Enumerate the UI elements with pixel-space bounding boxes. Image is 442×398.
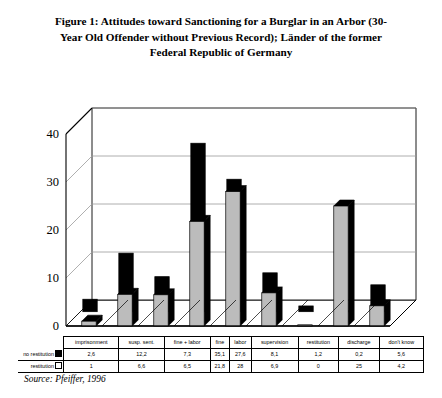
table-cell-value: 28 (229, 361, 251, 373)
table-row: no restitution2,612,27,335,127,68,11,20,… (18, 349, 424, 361)
bar-side-3d (204, 215, 210, 326)
y-axis-tick-label: 20 (47, 223, 60, 237)
legend-row-label: restitution (18, 361, 64, 373)
table-corner-cell (18, 337, 64, 349)
table-cell-value: 21,8 (210, 361, 229, 373)
bar-restitution-don-t-know (370, 306, 384, 326)
bar-side-3d (348, 200, 354, 326)
table-cell-value: 0,2 (339, 349, 380, 361)
gridline-depth (66, 156, 92, 182)
table-column-header: imprisonment (64, 337, 119, 349)
table-column-header: don't know (379, 337, 423, 349)
y-axis-tick-label: 30 (47, 175, 60, 189)
table-cell-value: 1,2 (298, 349, 339, 361)
data-table: imprisonmentsusp. sent.fine + laborfinel… (18, 336, 424, 373)
bar-group-restitution (226, 186, 246, 326)
table-cell-value: 5,6 (379, 349, 423, 361)
table-cell-value: 8,1 (251, 349, 298, 361)
bar-group-no-restitution (83, 299, 97, 311)
gridline-depth (66, 252, 92, 278)
bar-restitution-fine-labor (154, 295, 168, 326)
table-column-header: discharge (339, 337, 380, 349)
bar-restitution-imprisonment (82, 321, 96, 326)
y-axis-top-depth (66, 108, 92, 134)
figure-title: Figure 1: Attitudes toward Sanctioning f… (46, 14, 396, 61)
bar-chart: 010203040 (22, 92, 422, 332)
y-axis-tick-label: 40 (47, 127, 60, 141)
table-cell-value: 6,5 (164, 361, 210, 373)
table-cell-value: 0 (298, 361, 339, 373)
table-cell-value: 6,9 (251, 361, 298, 373)
bar-restitution-fine (190, 221, 204, 326)
table-cell-value: 2,6 (64, 349, 119, 361)
table-cell-value: 12,2 (119, 349, 164, 361)
table-cell-value: 4,2 (379, 361, 423, 373)
y-axis-tick-label: 0 (53, 319, 59, 332)
table-cell-value: 6,6 (119, 361, 164, 373)
legend-swatch-icon (55, 362, 62, 369)
bar-restitution-labor (226, 192, 240, 326)
table-column-header: fine (210, 337, 229, 349)
y-axis-tick-label: 10 (47, 271, 60, 285)
table-column-header: labor (229, 337, 251, 349)
table-cell-value: 7,3 (164, 349, 210, 361)
source-note: Source: Pfeiffer, 1996 (24, 374, 106, 384)
bar-restitution-susp-sent- (118, 294, 132, 326)
bar-side-3d (132, 288, 138, 326)
bar-no-restitution-imprisonment (83, 299, 97, 311)
table-column-header: supervision (251, 337, 298, 349)
gridline-depth (66, 204, 92, 230)
table-column-header: restitution (298, 337, 339, 349)
table-cell-value: 1 (64, 361, 119, 373)
bar-group-restitution (370, 300, 390, 326)
table-cell-value: 25 (339, 361, 380, 373)
table-cell-value: 27,6 (229, 349, 251, 361)
table-column-header: fine + labor (164, 337, 210, 349)
legend-swatch-icon (55, 350, 62, 357)
table-column-header: susp. sent. (119, 337, 164, 349)
bar-side-3d (276, 287, 282, 326)
table-cell-value: 35,1 (210, 349, 229, 361)
table-row: restitution16,66,521,8286,90254,2 (18, 361, 424, 373)
bar-side-3d (240, 186, 246, 326)
bar-group-restitution (190, 215, 210, 326)
bar-group-restitution (262, 287, 282, 326)
chart-svg: 010203040 (22, 92, 422, 332)
table-header-row: imprisonmentsusp. sent.fine + laborfinel… (18, 337, 424, 349)
bar-restitution-supervision (262, 293, 276, 326)
legend-row-label: no restitution (18, 349, 64, 361)
bar-side-3d (168, 289, 174, 326)
